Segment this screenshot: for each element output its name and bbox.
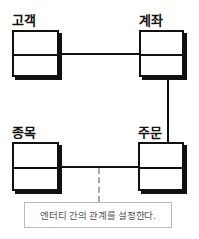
entity-box-account: [139, 30, 184, 77]
entity-box-stock: [12, 142, 59, 191]
entity-label-stock: 종목: [12, 126, 35, 140]
entity-divider: [140, 167, 182, 169]
entity-box-order: [138, 142, 184, 191]
entity-divider: [141, 54, 182, 56]
entity-label-account: 계좌: [139, 14, 162, 28]
callout-pointer-line: [98, 168, 100, 202]
relationship-line-account-order: [167, 76, 169, 142]
callout-text: 엔터티 간의 관계를 설정한다.: [40, 208, 155, 222]
entity-divider: [14, 54, 57, 56]
entity-label-order: 주문: [138, 126, 161, 140]
callout-box: 엔터티 간의 관계를 설정한다.: [24, 202, 172, 228]
relationship-line-customer-account: [59, 53, 139, 55]
entity-label-customer: 고객: [12, 14, 35, 28]
entity-divider: [14, 167, 57, 169]
entity-box-customer: [12, 30, 59, 77]
